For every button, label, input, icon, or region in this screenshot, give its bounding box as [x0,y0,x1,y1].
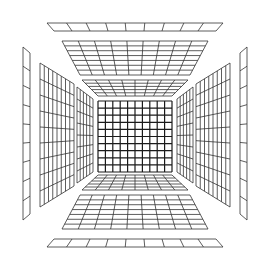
ceiling-outer-grid [47,23,223,31]
right-wall-inner-grid [177,87,193,183]
left-wall-middle-grid [40,63,74,207]
floor-inner-grid [82,175,188,190]
ceiling-middle-grid [62,41,208,75]
floor-middle-grid [62,195,208,229]
center-back-wall-grid [98,101,172,172]
perspective-grid-diagram [0,0,270,267]
perspective-room-grid [0,0,270,267]
ceiling-inner-grid [82,80,188,96]
floor-outer-grid [47,239,223,247]
right-wall-middle-grid [196,63,230,207]
left-wall-outer-grid [23,47,30,220]
left-wall-inner-grid [77,87,93,183]
right-wall-outer-grid [240,47,247,220]
